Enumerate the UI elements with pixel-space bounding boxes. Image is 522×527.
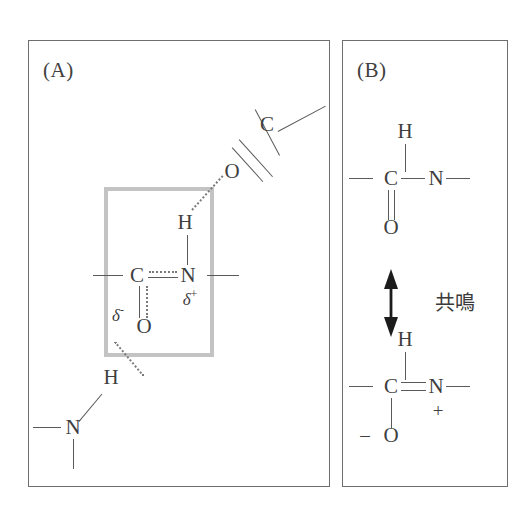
bond-donor-h-n xyxy=(78,394,102,422)
atom-amide-nitrogen-bottom: N xyxy=(428,376,443,397)
charge-formal-minus-oxygen: – xyxy=(360,425,370,444)
atom-carbonyl-oxygen-top: O xyxy=(224,161,239,182)
atom-amide-nitrogen-top: N xyxy=(428,168,443,189)
bond-donor-n-left xyxy=(33,427,61,428)
atom-carbonyl-carbon-top: C xyxy=(260,114,274,135)
bond-top-cn-single xyxy=(401,178,425,179)
bond-bottom-cn-double-upper xyxy=(401,382,426,383)
delta-minus-glyph: δ xyxy=(112,306,120,325)
bond-bottom-cn-double-lower xyxy=(401,390,426,391)
atom-amide-hydrogen-top: H xyxy=(397,121,412,142)
bond-top-c-upright xyxy=(278,106,326,133)
bond-cn-partial-solid xyxy=(148,277,178,278)
panel-a: (A) C O H C N O δ+ xyxy=(28,40,330,487)
atom-amide-carbon-top: C xyxy=(384,168,398,189)
bond-bottom-backbone-right xyxy=(446,386,470,387)
bond-top-backbone-right xyxy=(446,178,470,179)
bond-backbone-right xyxy=(207,275,239,276)
atom-carbonyl-oxygen-center: O xyxy=(136,316,151,337)
bond-top-co-double-1 xyxy=(238,139,272,177)
bond-bottom-n-h xyxy=(405,352,406,380)
charge-delta-plus-nitrogen: δ+ xyxy=(183,288,198,308)
atom-amide-hydrogen: H xyxy=(177,212,192,233)
bond-top-backbone-left xyxy=(349,178,373,179)
atom-carbonyl-oxygen-top-b: O xyxy=(383,217,398,238)
bond-bottom-backbone-left xyxy=(349,386,373,387)
panel-b: (B) H C N O 共鳴 H C N xyxy=(342,40,508,487)
atom-donor-hydrogen: H xyxy=(103,367,118,388)
delta-plus-sign: + xyxy=(191,287,198,301)
bond-donor-n-down xyxy=(73,439,74,469)
panel-a-label: (A) xyxy=(43,58,74,83)
bond-n-h-vertical xyxy=(187,235,188,265)
charge-delta-minus-oxygen: δ- xyxy=(112,304,124,324)
bond-cn-partial-dotted xyxy=(149,271,177,273)
delta-minus-sign: - xyxy=(120,303,124,317)
figure-root: (A) C O H C N O δ+ xyxy=(0,0,522,527)
atom-oxide-oxygen-bottom: O xyxy=(383,425,398,446)
atom-amide-carbon: C xyxy=(130,265,144,286)
atom-amide-hydrogen-bottom: H xyxy=(397,329,412,350)
panel-b-label: (B) xyxy=(357,58,387,83)
bond-backbone-left xyxy=(93,275,123,276)
charge-formal-plus-nitrogen: + xyxy=(433,401,444,420)
delta-plus-glyph: δ xyxy=(183,290,191,309)
atom-amide-nitrogen: N xyxy=(180,265,195,286)
resonance-label-japanese: 共鳴 xyxy=(435,293,475,313)
atom-donor-nitrogen: N xyxy=(65,417,80,438)
atom-amide-carbon-bottom: C xyxy=(384,376,398,397)
bond-top-n-h xyxy=(405,144,406,172)
